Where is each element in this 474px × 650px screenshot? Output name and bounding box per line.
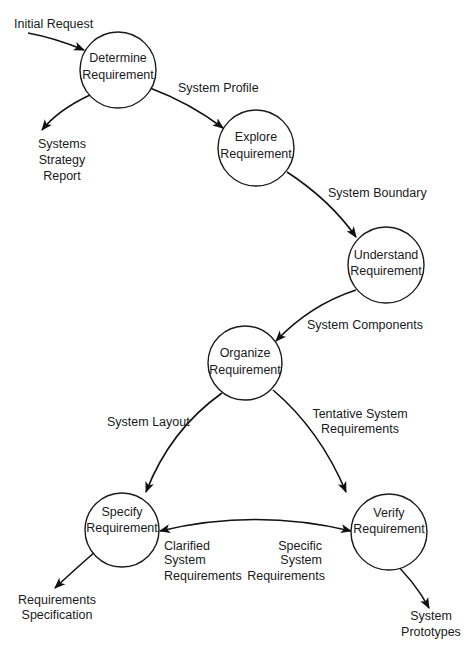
flow-systems-strategy-report [42, 95, 90, 130]
flow-system-layout [146, 393, 222, 492]
svg-text:Requirement: Requirement [350, 264, 422, 278]
svg-text:Requirement: Requirement [220, 147, 292, 161]
svg-text:Requirements: Requirements [247, 569, 325, 583]
label-system-components: System Components [307, 318, 423, 332]
flow-clarified-specific-requirements [160, 520, 351, 532]
svg-text:Specification: Specification [22, 608, 93, 622]
svg-text:Requirement: Requirement [82, 68, 154, 82]
svg-text:Requirement: Requirement [353, 522, 425, 536]
flow-initial-request [28, 33, 84, 50]
svg-text:Requirement: Requirement [209, 363, 281, 377]
label-system-layout: System Layout [107, 415, 190, 429]
label-requirements-specification: Requirements Specification [18, 593, 96, 622]
label-initial-request: Initial Request [14, 17, 94, 31]
node-determine-requirement: Determine Requirement [80, 32, 156, 108]
svg-text:System: System [280, 553, 322, 567]
svg-text:Verify: Verify [373, 506, 405, 520]
flow-system-components [276, 290, 356, 341]
node-specify-requirement: Specify Requirement [85, 493, 159, 567]
label-system-boundary: System Boundary [328, 186, 427, 200]
label-tentative-system-requirements: Tentative System Requirements [312, 407, 407, 436]
node-verify-requirement: Verify Requirement [351, 494, 427, 570]
svg-text:Strategy: Strategy [39, 153, 86, 167]
svg-text:Explore: Explore [235, 130, 277, 144]
label-specific-system-requirements: Specific System Requirements [247, 539, 325, 583]
svg-text:Understand: Understand [354, 248, 419, 262]
label-clarified-system-requirements: Clarified System Requirements [164, 539, 242, 583]
svg-text:Clarified: Clarified [164, 539, 210, 553]
svg-text:System: System [164, 553, 206, 567]
svg-text:Specify: Specify [102, 505, 144, 519]
flow-system-boundary [287, 172, 356, 237]
flow-tentative-system-requirements [273, 390, 346, 492]
requirements-flow-diagram: Determine Requirement Explore Requiremen… [0, 0, 474, 650]
svg-text:Determine: Determine [89, 51, 147, 65]
node-organize-requirement: Organize Requirement [208, 326, 282, 400]
svg-text:Systems: Systems [38, 137, 86, 151]
label-systems-strategy-report: Systems Strategy Report [38, 137, 86, 183]
svg-text:Prototypes: Prototypes [401, 625, 461, 639]
flow-requirements-specification [55, 551, 96, 588]
label-system-profile: System Profile [178, 81, 259, 95]
svg-text:Requirements: Requirements [321, 422, 399, 436]
label-system-prototypes: System Prototypes [401, 609, 461, 639]
svg-text:Organize: Organize [220, 346, 271, 360]
node-explore-requirement: Explore Requirement [218, 110, 294, 186]
node-understand-requirement: Understand Requirement [348, 227, 424, 303]
svg-text:Requirement: Requirement [86, 521, 158, 535]
svg-text:System: System [410, 609, 452, 623]
svg-text:Requirements: Requirements [164, 569, 242, 583]
svg-text:Report: Report [43, 169, 81, 183]
svg-text:Specific: Specific [278, 539, 322, 553]
svg-text:Tentative System: Tentative System [312, 407, 407, 421]
svg-text:Requirements: Requirements [18, 593, 96, 607]
